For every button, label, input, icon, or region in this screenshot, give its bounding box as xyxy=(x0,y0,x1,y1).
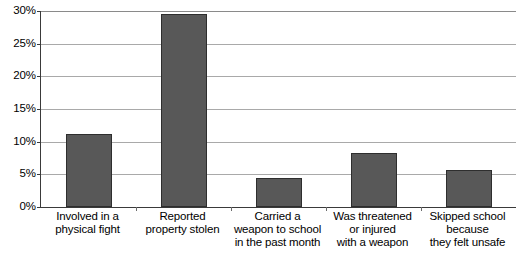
y-tick-mark xyxy=(37,11,41,12)
x-axis-category-label-line: Reported xyxy=(135,210,230,223)
gridline-20 xyxy=(41,76,516,77)
gridline-10 xyxy=(41,142,516,143)
x-axis-category-label: Skipped schoolbecausethey felt unsafe xyxy=(420,210,515,249)
bar xyxy=(66,134,112,207)
y-tick-mark xyxy=(37,142,41,143)
x-axis-category-label-line: Involved in a xyxy=(40,210,135,223)
x-axis-category-label-line: they felt unsafe xyxy=(420,236,515,249)
y-axis-tick-label: 5% xyxy=(2,168,36,179)
x-axis-category-label: Involved in aphysical fight xyxy=(40,210,135,236)
x-axis-category-label-line: physical fight xyxy=(40,223,135,236)
plot-area xyxy=(40,11,515,207)
y-tick-mark xyxy=(37,174,41,175)
x-axis-category-label-line: Was threatened xyxy=(325,210,420,223)
gridline-0 xyxy=(41,207,516,208)
y-tick-mark xyxy=(37,109,41,110)
x-axis-category-label: Reportedproperty stolen xyxy=(135,210,230,236)
bar xyxy=(446,170,492,207)
y-tick-mark xyxy=(37,76,41,77)
x-axis-category-label-line: Carried a xyxy=(230,210,325,223)
gridline-5 xyxy=(41,174,516,175)
x-axis-category-label-line: weapon to school xyxy=(230,223,325,236)
x-axis-category-label-line: in the past month xyxy=(230,236,325,249)
y-tick-mark xyxy=(37,207,41,208)
x-axis-category-label-line: or injured xyxy=(325,223,420,236)
gridline-15 xyxy=(41,109,516,110)
bar xyxy=(161,14,207,207)
y-axis-tick-label: 15% xyxy=(2,103,36,114)
y-axis-tick-label: 20% xyxy=(2,70,36,81)
y-axis-tick-label: 0% xyxy=(2,201,36,212)
bar xyxy=(256,178,302,207)
bar xyxy=(351,153,397,207)
x-axis-category-label: Carried aweapon to schoolin the past mon… xyxy=(230,210,325,249)
y-tick-mark xyxy=(37,44,41,45)
x-axis-category-label-line: because xyxy=(420,223,515,236)
x-axis: Involved in aphysical fightReportedprope… xyxy=(40,210,515,253)
x-axis-category-label-line: property stolen xyxy=(135,223,230,236)
gridline-25 xyxy=(41,44,516,45)
x-axis-category-label: Was threatenedor injuredwith a weapon xyxy=(325,210,420,249)
y-axis-tick-label: 10% xyxy=(2,136,36,147)
gridline-30 xyxy=(41,11,516,12)
y-axis-tick-label: 30% xyxy=(2,5,36,16)
x-axis-category-label-line: with a weapon xyxy=(325,236,420,249)
x-axis-category-label-line: Skipped school xyxy=(420,210,515,223)
y-axis-tick-label: 25% xyxy=(2,38,36,49)
y-axis: 30%25%20%15%10%5%0% xyxy=(0,0,36,253)
bar-chart: 30%25%20%15%10%5%0% Involved in aphysica… xyxy=(0,0,524,253)
